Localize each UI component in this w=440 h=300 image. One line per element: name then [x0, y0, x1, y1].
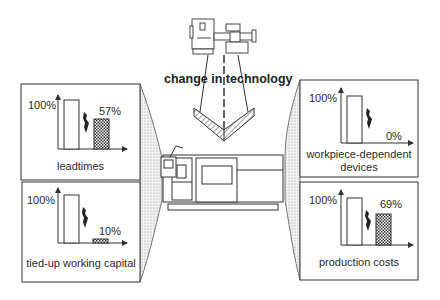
conventional-lathe-icon	[190, 19, 256, 54]
costs-before-value: 100%	[309, 194, 337, 206]
capital-after-value: 10%	[99, 225, 121, 237]
workpiece-after-value: 0%	[386, 130, 402, 142]
costs-after-value: 69%	[380, 198, 402, 210]
leadtimes-label: leadtimes	[21, 160, 140, 172]
diagram-title: change in technology	[164, 72, 293, 86]
workpiece-label-line2: devices	[300, 161, 418, 173]
costs-label: production costs	[300, 256, 418, 268]
cnc-machining-center-icon	[161, 146, 283, 210]
capital-before-value: 100%	[27, 194, 55, 206]
capital-label: tied-up working capital	[22, 257, 140, 269]
workpiece-before-value: 100%	[309, 92, 337, 104]
workpiece-label-line1: workpiece-dependent	[300, 148, 418, 160]
leadtimes-before-value: 100%	[28, 99, 56, 111]
leadtimes-after-value: 57%	[99, 105, 121, 117]
